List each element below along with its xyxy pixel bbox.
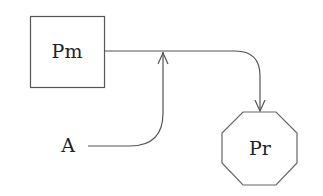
edge-a-to-junction [88,52,168,146]
diagram-canvas: Pm Pr A [0,0,323,196]
node-pr-label: Pr [249,137,272,159]
node-pm-label: Pm [52,40,83,62]
node-a: A [60,134,75,156]
edge-pm-to-pr [104,51,265,111]
node-a-label: A [60,134,75,156]
node-pm: Pm [31,17,105,88]
node-pr: Pr [222,112,297,185]
edge-line [88,52,163,146]
edge-line [104,51,260,111]
